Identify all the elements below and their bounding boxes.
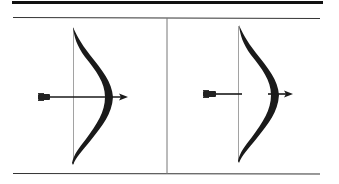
right-panel: [203, 25, 293, 163]
bow-arrow-figure: [0, 0, 339, 184]
bow-icon-left: [72, 27, 113, 165]
arrow-fletching-left: [38, 94, 50, 100]
arrow-fletching-right: [203, 91, 216, 97]
left-panel: [38, 27, 128, 165]
